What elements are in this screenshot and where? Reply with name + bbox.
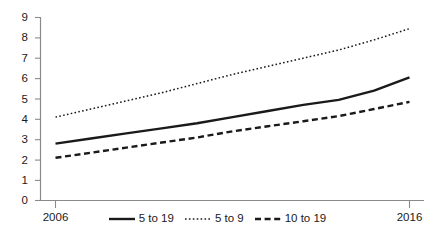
axis-group <box>41 17 425 201</box>
y-tick-label-6: 6 <box>12 73 28 85</box>
series-line-10-to-19 <box>56 102 410 158</box>
chart-plot-area <box>0 0 435 238</box>
chart-legend: 5 to 19 5 to 9 10 to 19 <box>0 213 435 225</box>
legend-label-5-to-9: 5 to 9 <box>215 213 244 225</box>
y-tick-label-5: 5 <box>12 94 28 106</box>
legend-item-10-to-19[interactable]: 10 to 19 <box>255 213 327 225</box>
series-lines <box>56 29 410 158</box>
y-tick-marks <box>35 18 41 201</box>
legend-label-5-to-19: 5 to 19 <box>139 213 174 225</box>
y-tick-label-8: 8 <box>12 32 28 44</box>
y-tick-label-3: 3 <box>12 134 28 146</box>
legend-label-10-to-19: 10 to 19 <box>285 213 327 225</box>
line-chart: 9 8 7 6 5 4 3 2 1 0 2006 2016 5 to 19 5 … <box>0 0 435 238</box>
legend-swatch-dashed-icon <box>255 214 281 224</box>
legend-item-5-to-19[interactable]: 5 to 19 <box>109 213 174 225</box>
legend-swatch-solid-icon <box>109 214 135 224</box>
y-tick-label-7: 7 <box>12 53 28 65</box>
y-tick-label-0: 0 <box>12 195 28 207</box>
y-tick-label-4: 4 <box>12 114 28 126</box>
series-line-5-to-19 <box>56 77 410 143</box>
y-tick-label-1: 1 <box>12 175 28 187</box>
legend-swatch-dotted-icon <box>185 214 211 224</box>
legend-item-5-to-9[interactable]: 5 to 9 <box>185 213 244 225</box>
y-tick-label-2: 2 <box>12 155 28 167</box>
series-line-5-to-9 <box>56 29 410 117</box>
y-tick-label-9: 9 <box>12 12 28 24</box>
x-tick-marks <box>56 201 410 209</box>
